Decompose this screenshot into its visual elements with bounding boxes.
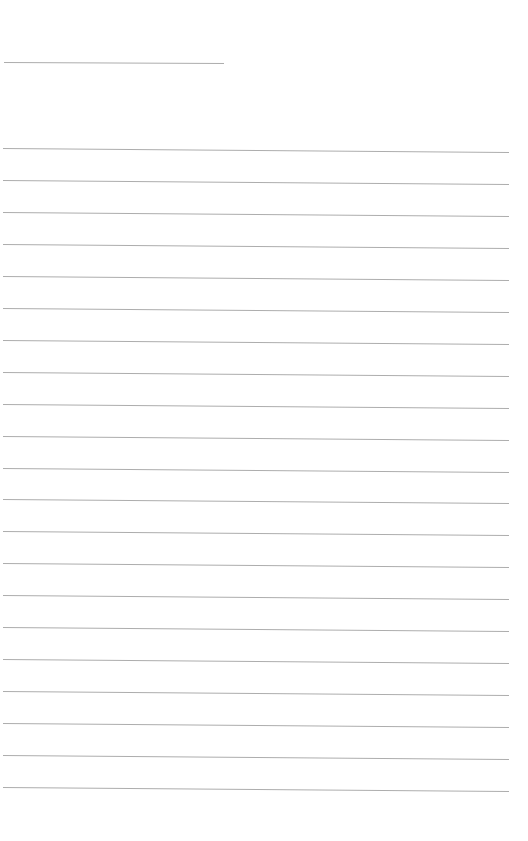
- ruled-line: [3, 373, 509, 377]
- ruled-lines: [0, 0, 528, 841]
- ruled-line: [3, 341, 509, 345]
- ruled-line: [3, 692, 509, 696]
- ruled-line: [3, 245, 509, 249]
- ruled-line: [3, 309, 509, 313]
- ruled-line: [3, 213, 509, 217]
- ruled-line: [3, 756, 509, 760]
- ruled-line: [3, 181, 509, 185]
- lined-paper-page: [0, 0, 528, 841]
- ruled-line: [3, 596, 509, 600]
- ruled-line: [3, 149, 509, 153]
- header-line: [4, 63, 224, 64]
- ruled-line: [3, 469, 509, 473]
- ruled-line: [3, 564, 509, 568]
- ruled-line: [3, 724, 509, 728]
- ruled-line: [3, 437, 509, 441]
- ruled-line: [3, 628, 509, 632]
- ruled-line: [3, 277, 509, 281]
- ruled-line: [3, 405, 509, 409]
- ruled-line: [3, 532, 509, 536]
- ruled-line: [3, 500, 509, 504]
- ruled-line: [3, 660, 509, 664]
- ruled-line: [3, 788, 509, 792]
